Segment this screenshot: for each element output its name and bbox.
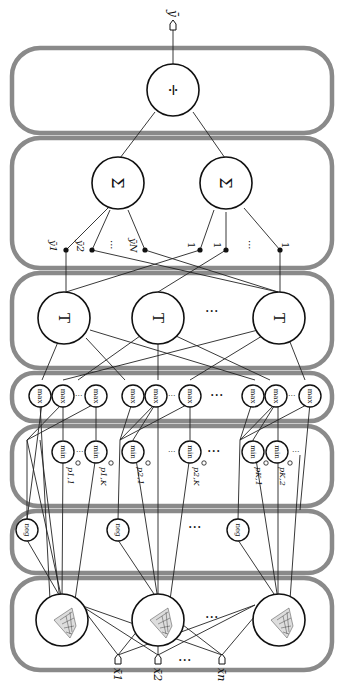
fuzzy-network-diagram: ȳ ȳ1 ȳ2 ··· ȳN 1 1 ··· 1 <box>0 0 342 695</box>
svg-text:p1,K: p1,K <box>99 467 108 487</box>
svg-text:Σ: Σ <box>216 177 235 188</box>
svg-text:min: min <box>273 445 281 459</box>
output-label: ȳ <box>166 9 180 17</box>
svg-text:p1,1: p1,1 <box>66 467 75 485</box>
input-xn: x̄n <box>215 654 228 681</box>
t-layer-ellipsis: ··· <box>205 303 218 319</box>
svg-text:max: max <box>129 389 137 404</box>
min-parameters: p1,1 p1,K p2,1 p2,K pK,1 pK,2 <box>66 461 292 487</box>
input-x1: x̄1 <box>111 654 124 681</box>
svg-text:T: T <box>149 313 167 323</box>
input-arrow-icon <box>115 654 121 664</box>
min-ellipsis-mid: ··· <box>207 443 220 459</box>
svg-text:max: max <box>272 389 280 404</box>
division-symbol: ÷ <box>164 83 183 96</box>
svg-text:max: max <box>249 389 257 404</box>
svg-text:pK,1: pK,1 <box>254 467 263 486</box>
min-layer-box <box>12 426 332 506</box>
min-ellipsis-3: ··· <box>292 447 300 456</box>
svg-text:p2,1: p2,1 <box>136 467 145 485</box>
input-ellipsis: ··· <box>178 652 191 668</box>
svg-text:min: min <box>92 445 100 459</box>
min-ellipsis-1: ··· <box>76 447 84 456</box>
svg-text:neg: neg <box>234 523 242 537</box>
svg-text:max: max <box>306 389 314 404</box>
t-node-k: T <box>253 292 305 344</box>
max-ellipsis-2: ··· <box>168 391 176 400</box>
neg-node-1: neg <box>16 519 38 541</box>
membership-node-k <box>253 594 305 646</box>
summation-layer-box <box>12 138 332 268</box>
svg-text:Σ: Σ <box>108 177 127 188</box>
weight-dots-left: ··· <box>106 240 117 250</box>
weight-label-y2: ȳ2 <box>75 239 86 252</box>
weight-label-one-3: 1 <box>280 242 291 248</box>
svg-text:T: T <box>55 313 73 323</box>
weight-label-one-1: 1 <box>186 242 197 248</box>
input-x2: x̄2 <box>151 654 164 681</box>
neg-layer-box <box>12 511 332 573</box>
output-arrow-icon <box>170 20 176 30</box>
svg-text:max: max <box>152 389 160 404</box>
weight-label-yN: ȳN <box>128 237 139 254</box>
svg-text:x̄1: x̄1 <box>111 668 124 681</box>
svg-text:x̄n: x̄n <box>215 668 228 681</box>
input-arrow-icon <box>155 654 161 664</box>
t-node-2: T <box>132 292 184 344</box>
neg-ellipsis: ··· <box>188 519 201 535</box>
max-ellipsis-3: ··· <box>288 391 296 400</box>
weight-dots-right: ··· <box>244 240 255 250</box>
svg-text:min: min <box>186 445 194 459</box>
svg-text:max: max <box>59 389 67 404</box>
membership-node-2 <box>132 594 184 646</box>
division-node: ÷ <box>147 64 199 116</box>
svg-text:neg: neg <box>23 523 31 537</box>
input-arrow-icon <box>219 654 225 664</box>
svg-text:max: max <box>92 389 100 404</box>
svg-text:x̄2: x̄2 <box>151 668 164 681</box>
svg-text:max: max <box>186 389 194 404</box>
max-ellipsis-1: ··· <box>75 391 83 400</box>
svg-text:p2,K: p2,K <box>192 467 201 487</box>
svg-text:min: min <box>249 445 257 459</box>
svg-text:neg: neg <box>114 523 122 537</box>
svg-text:max: max <box>36 389 44 404</box>
svg-text:min: min <box>59 445 67 459</box>
membership-ellipsis: ··· <box>205 609 218 625</box>
svg-text:min: min <box>129 445 137 459</box>
weight-label-y1: ȳ1 <box>48 239 59 252</box>
membership-node-1 <box>36 594 88 646</box>
svg-text:pK,2: pK,2 <box>278 467 287 486</box>
max-ellipsis-mid: ··· <box>210 387 223 403</box>
sigma-node-1: Σ <box>92 157 144 209</box>
svg-text:T: T <box>270 313 288 323</box>
sigma-node-2: Σ <box>200 157 252 209</box>
neg-node-2: neg <box>107 519 129 541</box>
t-node-1: T <box>38 292 90 344</box>
weight-label-one-2: 1 <box>212 242 223 248</box>
neg-node-k: neg <box>227 519 249 541</box>
min-ellipsis-2: ··· <box>168 447 176 456</box>
